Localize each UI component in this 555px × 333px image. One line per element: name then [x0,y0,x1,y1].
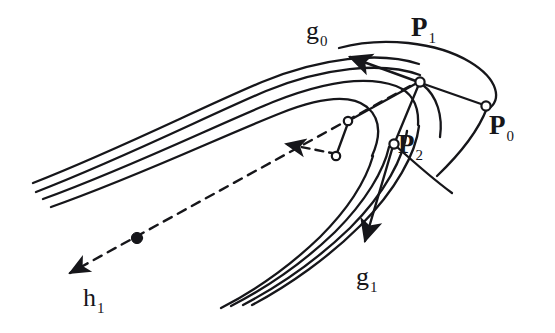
label-p1-base: P [411,12,428,42]
cap-curve-p0-down [437,108,487,176]
label-p0-subscript: 0 [507,128,515,144]
label-g0-subscript: 0 [320,33,328,49]
label-g0: g0 [306,18,327,44]
label-p1-subscript: 1 [429,30,437,46]
label-h1: h1 [83,285,104,311]
lower-curve-4 [221,156,373,308]
node-q2 [332,152,340,160]
lower-curve-family [221,126,419,308]
label-h1-subscript: 1 [97,300,105,316]
link-q1-q2 [337,123,348,153]
node-q1 [344,117,352,125]
label-g1-subscript: 1 [370,279,378,295]
label-p0: P0 [489,112,513,139]
figure-canvas: g0 P1 P0 P2 g1 h1 [0,0,555,333]
label-h1-base: h [83,283,96,312]
label-p1: P1 [411,14,435,41]
label-p2-subscript: 2 [416,147,424,163]
upper-curve-2 [36,68,420,192]
label-g0-base: g [306,16,319,45]
label-g1-base: g [356,262,369,291]
label-p0-base: P [489,110,506,140]
label-p2: P2 [398,131,422,158]
node-h1-origin-dot [131,232,142,243]
label-p2-base: P [398,129,415,159]
label-g1: g1 [356,264,377,290]
cap-curve-inner [423,85,441,137]
node-p1 [415,77,424,86]
upper-curve-1 [33,58,419,183]
